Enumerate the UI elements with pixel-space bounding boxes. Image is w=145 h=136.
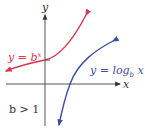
graph: x y y = bx y = logb x b > 1 xyxy=(0,0,145,136)
logarithm-label: y = logb x xyxy=(89,64,145,79)
x-axis-label: x xyxy=(123,78,130,91)
y-axis-label: y xyxy=(41,1,49,14)
condition-label: b > 1 xyxy=(9,103,39,116)
logarithm-curve xyxy=(59,41,113,125)
exponential-label: y = bx xyxy=(7,51,41,64)
